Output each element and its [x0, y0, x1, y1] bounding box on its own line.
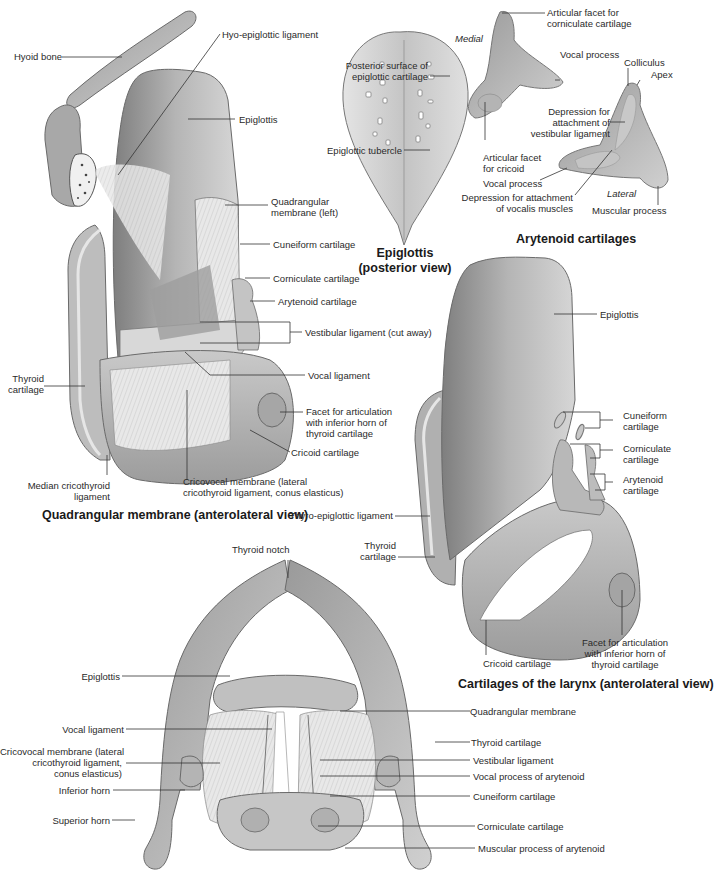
label-muscular-process-arytenoid: Muscular process of arytenoid	[478, 843, 605, 854]
label-cricovocal-membrane-3: Cricovocal membrane (lateralcricothyroid…	[0, 746, 122, 779]
label-vocal-ligament: Vocal ligament	[308, 370, 370, 381]
label-corniculate-2: Corniculatecartilage	[623, 443, 671, 465]
label-hyoid-bone: Hyoid bone	[14, 51, 62, 62]
title-cartilages-larynx: Cartilages of the larynx (anterolateral …	[458, 677, 714, 692]
label-corniculate-3: Corniculate cartilage	[477, 821, 564, 832]
label-posterior-surface: Posterior surface ofepiglottic cartilage	[325, 60, 428, 82]
label-thyroid-cartilage-3: Thyroid cartilage	[471, 737, 541, 748]
label-inferior-horn: Inferior horn	[30, 785, 110, 796]
quadrangular-membrane-drawing	[45, 11, 294, 484]
label-quadrangular-membrane-3: Quadrangular membrane	[470, 706, 576, 717]
label-quadrangular-membrane-left: Quadrangularmembrane (left)	[271, 196, 338, 218]
label-articular-facet-corniculate: Articular facet forcorniculate cartilage	[547, 7, 632, 29]
label-corniculate-cartilage: Corniculate cartilage	[273, 273, 360, 284]
label-articular-facet-cricoid: Articular facetfor cricoid	[483, 152, 541, 174]
label-cuneiform-2: Cuneiformcartilage	[623, 410, 667, 432]
label-epiglottis-3: Epiglottis	[30, 671, 120, 682]
label-cricoid-cartilage: Cricoid cartilage	[291, 447, 359, 458]
label-thyroid-notch: Thyroid notch	[232, 544, 290, 555]
label-vocal-ligament-3: Vocal ligament	[30, 724, 124, 735]
label-vestibular-ligament-3: Vestibular ligament	[473, 755, 553, 766]
label-thyroid-cartilage-2: Thyroidcartilage	[350, 540, 396, 562]
label-apex: Apex	[651, 69, 673, 80]
label-cuneiform-3: Cuneiform cartilage	[473, 791, 555, 802]
label-superior-horn: Superior horn	[30, 815, 110, 826]
label-medial: Medial	[455, 33, 483, 44]
title-epiglottis-posterior: Epiglottis(posterior view)	[350, 246, 460, 276]
label-arytenoid-2: Arytenoidcartilage	[623, 474, 663, 496]
label-epiglottis-2: Epiglottis	[600, 309, 639, 320]
label-depression-vestibular: Depression forattachment ofvestibular li…	[510, 106, 610, 139]
label-cricovocal-membrane: Cricovocal membrane (lateralcricothyroid…	[183, 476, 344, 498]
label-facet-articulation: Facet for articulationwith inferior horn…	[306, 406, 392, 439]
label-vocal-process-medial: Vocal process	[560, 49, 619, 60]
label-facet-articulation-2: Facet for articulationwith inferior horn…	[575, 637, 675, 670]
label-median-cricothyroid-ligament: Median cricothyroidligament	[10, 480, 110, 502]
label-thyro-epiglottic-ligament: Thyro-epiglottic ligament	[220, 510, 393, 521]
label-colliculus: Colliculus	[624, 57, 665, 68]
label-cuneiform-cartilage: Cuneiform cartilage	[273, 239, 355, 250]
label-arytenoid-cartilage: Arytenoid cartilage	[278, 296, 357, 307]
label-vestibular-ligament-cut: Vestibular ligament (cut away)	[305, 327, 432, 338]
label-hyo-epiglottic-ligament: Hyo-epiglottic ligament	[222, 29, 318, 40]
label-depression-vocalis: Depression for attachmentof vocalis musc…	[455, 192, 573, 214]
label-muscular-process: Muscular process	[592, 205, 666, 216]
label-epiglottis: Epiglottis	[239, 114, 278, 125]
label-epiglottic-tubercle: Epiglottic tubercle	[325, 145, 402, 156]
title-arytenoid-cartilages: Arytenoid cartilages	[516, 232, 636, 247]
label-cricoid-cartilage-2: Cricoid cartilage	[483, 658, 551, 669]
label-thyroid-cartilage: Thyroidcartilage	[8, 373, 44, 395]
superior-view-drawing	[144, 560, 431, 869]
label-lateral: Lateral	[607, 188, 636, 199]
label-vocal-process-lateral: Vocal process	[483, 178, 542, 189]
label-vocal-process-arytenoid: Vocal process of arytenoid	[473, 771, 584, 782]
